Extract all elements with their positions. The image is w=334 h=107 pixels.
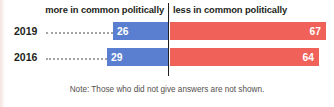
bar-value-left-2016: 29 [111, 51, 122, 65]
bar-left-2019: 26 [113, 22, 168, 40]
table-row: 2019 26 67 [0, 21, 334, 47]
diverging-bar-chart: more in common politically less in commo… [0, 0, 334, 107]
legend-label-more-in-common: more in common politically [0, 2, 164, 17]
chart-note: Note: Those who did not give answers are… [0, 84, 334, 96]
legend-label-less-in-common: less in common politically [173, 2, 334, 17]
bar-right-2016: 64 [170, 48, 319, 66]
bar-value-left-2019: 26 [117, 25, 128, 39]
leader-dots-2016 [46, 58, 107, 62]
bar-value-right-2016: 64 [303, 51, 314, 65]
bar-value-right-2019: 67 [310, 25, 321, 39]
chart-rows: 2019 26 67 2016 29 64 [0, 21, 334, 73]
leader-dots-2019 [46, 32, 113, 36]
bar-left-2016: 29 [107, 48, 168, 66]
row-label-2016: 2016 [14, 50, 37, 64]
table-row: 2016 29 64 [0, 47, 334, 73]
row-label-2019: 2019 [14, 24, 37, 38]
chart-legend: more in common politically less in commo… [0, 2, 334, 18]
bar-right-2019: 67 [170, 22, 326, 40]
